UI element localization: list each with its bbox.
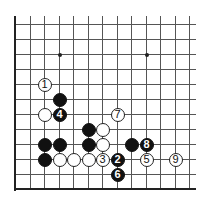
grid-line-horizontal — [15, 54, 196, 55]
move-number: 5 — [143, 154, 149, 165]
grid-line-horizontal — [15, 174, 196, 175]
white-stone: 1 — [38, 78, 52, 92]
move-number: 6 — [114, 169, 120, 180]
go-board-diagram: 147832596 — [0, 0, 209, 205]
white-stone — [38, 108, 52, 122]
black-stone: 6 — [111, 168, 125, 182]
move-number: 4 — [56, 109, 62, 120]
white-stone: 9 — [169, 153, 183, 167]
move-number: 8 — [143, 139, 149, 150]
white-stone — [53, 153, 67, 167]
white-stone: 7 — [111, 108, 125, 122]
black-stone — [53, 93, 67, 107]
grid-line-vertical — [160, 16, 161, 189]
white-stone: 3 — [96, 153, 110, 167]
star-point — [145, 53, 149, 57]
white-stone — [96, 123, 110, 137]
board-edge-bottom — [14, 188, 196, 190]
grid-line-horizontal — [15, 99, 196, 100]
board-edge-left — [14, 16, 16, 191]
grid-line-horizontal — [15, 39, 196, 40]
black-stone: 4 — [53, 108, 67, 122]
white-stone — [82, 153, 96, 167]
move-number: 7 — [114, 109, 120, 120]
grid-line-vertical — [131, 16, 132, 189]
grid-line-vertical — [30, 16, 31, 189]
move-number: 9 — [172, 154, 178, 165]
move-number: 1 — [41, 79, 47, 90]
black-stone — [53, 138, 67, 152]
grid-line-horizontal — [15, 24, 196, 25]
move-number: 2 — [114, 154, 120, 165]
black-stone: 8 — [140, 138, 154, 152]
black-stone: 2 — [111, 153, 125, 167]
star-point — [58, 53, 62, 57]
white-stone: 5 — [140, 153, 154, 167]
move-number: 3 — [99, 154, 105, 165]
grid-line-horizontal — [15, 69, 196, 70]
white-stone — [96, 138, 110, 152]
black-stone — [82, 138, 96, 152]
grid-line-vertical — [189, 16, 190, 189]
black-stone — [82, 123, 96, 137]
black-stone — [38, 138, 52, 152]
black-stone — [38, 153, 52, 167]
white-stone — [67, 153, 81, 167]
black-stone — [125, 138, 139, 152]
